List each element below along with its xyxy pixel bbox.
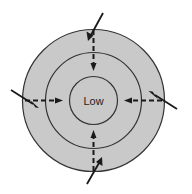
- center-label: Low: [83, 95, 103, 107]
- low-pressure-diagram: Low: [0, 0, 192, 194]
